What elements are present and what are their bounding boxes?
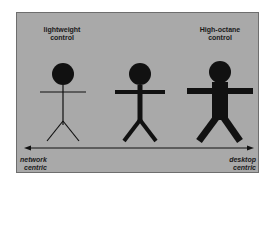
- label-line: desktop: [222, 156, 256, 164]
- thick-stick-figure-icon: [187, 61, 253, 141]
- label-line: centric: [222, 164, 256, 172]
- label-desktop-centric: desktop centric: [222, 156, 256, 172]
- label-line: centric: [20, 164, 56, 172]
- axis-arrow-icon: [24, 146, 254, 151]
- label-line: network: [20, 156, 56, 164]
- thin-stick-figure-icon: [40, 63, 86, 141]
- label-network-centric: network centric: [20, 156, 56, 172]
- medium-stick-figure-icon: [115, 63, 165, 141]
